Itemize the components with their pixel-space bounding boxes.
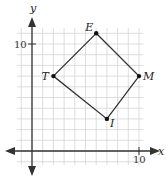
y-axis-arrow-down-icon: [28, 166, 36, 176]
vertex-label-I: I: [109, 117, 115, 130]
x-axis-label: x: [158, 145, 165, 158]
vertex-E: [94, 31, 98, 35]
x-axis-arrow-left-icon: [5, 147, 15, 155]
coordinate-plane: x y 10 10 EMIT: [0, 0, 166, 178]
vertices: EMIT: [41, 21, 155, 130]
vertex-label-T: T: [41, 70, 50, 83]
vertex-M: [137, 74, 141, 78]
y-axis-label: y: [29, 2, 37, 15]
y-axis-arrow-up-icon: [28, 17, 36, 27]
vertex-label-E: E: [84, 21, 93, 34]
vertex-I: [105, 117, 109, 121]
vertex-T: [51, 74, 55, 78]
vertex-label-M: M: [142, 70, 155, 83]
y-tick-label: 10: [14, 39, 27, 50]
x-tick-label: 10: [133, 154, 146, 165]
